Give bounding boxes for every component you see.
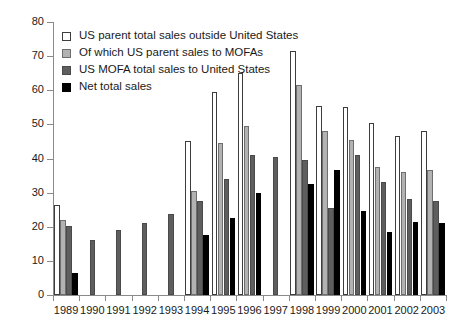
bar <box>395 136 400 295</box>
bar <box>256 193 261 295</box>
x-axis-tick-label: 1995 <box>210 305 236 316</box>
bar <box>375 167 380 295</box>
x-axis-tick <box>341 296 342 301</box>
x-axis-tick-label: 2000 <box>341 305 367 316</box>
bar <box>369 123 374 295</box>
bar <box>343 107 348 295</box>
x-axis-tick-label: 1991 <box>105 305 131 316</box>
legend-item-label: US parent total sales outside United Sta… <box>79 30 298 42</box>
bar <box>66 226 71 295</box>
x-axis-tick <box>420 296 421 301</box>
x-axis-tick <box>53 296 54 301</box>
x-axis-tick-label: 1990 <box>79 305 105 316</box>
bar <box>72 273 77 295</box>
bar <box>238 73 243 295</box>
x-axis-line <box>53 295 447 296</box>
bar <box>427 170 432 295</box>
bar <box>407 199 412 295</box>
bar <box>361 211 366 295</box>
y-axis-tick-label: 40 <box>8 153 44 164</box>
bar <box>401 172 406 295</box>
bar <box>328 208 333 295</box>
bar <box>421 131 426 295</box>
y-axis-tick-label: 70 <box>8 50 44 61</box>
bar <box>230 218 235 295</box>
x-axis-tick <box>236 296 237 301</box>
legend-item: Net total sales <box>62 79 298 95</box>
bar <box>54 205 59 295</box>
y-axis-tick-label: 20 <box>8 221 44 232</box>
x-axis-tick <box>315 296 316 301</box>
bar <box>290 51 295 295</box>
y-axis-tick-label: 30 <box>8 187 44 198</box>
bar <box>302 160 307 295</box>
bar <box>308 184 313 295</box>
legend-item-label: Of which US parent sales to MOFAs <box>79 47 263 59</box>
bar <box>273 157 278 295</box>
bar-chart: 01020304050607080 1989199019911992199319… <box>0 0 454 326</box>
bar <box>316 106 321 295</box>
bar <box>349 140 354 295</box>
bar <box>116 230 121 295</box>
x-axis-tick-label: 1996 <box>236 305 262 316</box>
y-axis-tick-label: 0 <box>8 289 44 300</box>
x-axis-tick-label: 1998 <box>289 305 315 316</box>
bar <box>387 232 392 295</box>
x-axis-tick-label: 1993 <box>158 305 184 316</box>
bar <box>203 235 208 295</box>
bar <box>250 155 255 295</box>
x-axis-tick <box>446 296 447 301</box>
x-axis-tick-label: 1994 <box>184 305 210 316</box>
bar <box>185 141 190 295</box>
y-axis-tick-label: 60 <box>8 84 44 95</box>
black-square-icon <box>62 83 71 92</box>
bar <box>296 85 301 295</box>
bar <box>90 240 95 295</box>
x-axis-tick-label: 1989 <box>53 305 79 316</box>
x-axis-tick <box>394 296 395 301</box>
bar <box>197 201 202 295</box>
bar <box>433 201 438 295</box>
x-axis-tick-label: 1997 <box>263 305 289 316</box>
x-axis-tick-label: 1999 <box>315 305 341 316</box>
bar <box>381 182 386 295</box>
light-gray-square-icon <box>62 49 71 58</box>
x-axis-tick-label: 2001 <box>367 305 393 316</box>
x-axis-tick-label: 1992 <box>132 305 158 316</box>
x-axis-tick <box>184 296 185 301</box>
x-axis-tick <box>263 296 264 301</box>
bar <box>168 214 173 295</box>
bar <box>334 170 339 295</box>
x-axis-tick <box>289 296 290 301</box>
bar <box>322 131 327 295</box>
x-axis-tick <box>158 296 159 301</box>
bar <box>60 220 65 295</box>
bar <box>439 223 444 295</box>
x-axis-tick-label: 2002 <box>394 305 420 316</box>
x-axis-tick <box>132 296 133 301</box>
bar <box>218 143 223 295</box>
bar <box>244 126 249 295</box>
legend-item: US parent total sales outside United Sta… <box>62 28 298 44</box>
x-axis-tick <box>210 296 211 301</box>
x-axis-tick <box>79 296 80 301</box>
bar <box>142 223 147 295</box>
bar <box>191 191 196 295</box>
bar <box>355 155 360 295</box>
bar <box>212 92 217 295</box>
x-axis-tick <box>367 296 368 301</box>
legend-item-label: Net total sales <box>79 81 152 93</box>
legend-item: Of which US parent sales to MOFAs <box>62 45 298 61</box>
dark-gray-square-icon <box>62 66 71 75</box>
x-axis-tick <box>105 296 106 301</box>
chart-legend: US parent total sales outside United Sta… <box>62 28 298 96</box>
white-square-icon <box>62 32 71 41</box>
x-axis-tick-label: 2003 <box>420 305 446 316</box>
legend-item: US MOFA total sales to United States <box>62 62 298 78</box>
y-axis-tick-label: 80 <box>8 16 44 27</box>
y-axis-tick-label: 10 <box>8 255 44 266</box>
bar <box>413 222 418 295</box>
bar <box>224 179 229 295</box>
y-axis-tick-label: 50 <box>8 118 44 129</box>
